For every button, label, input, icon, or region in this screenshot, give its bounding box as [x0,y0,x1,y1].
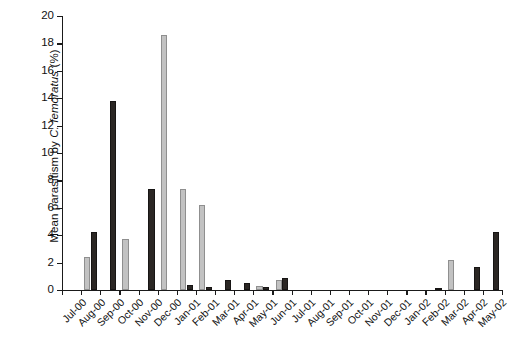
plot-area: 02468101214161820 [62,16,502,290]
bar [84,257,90,290]
x-tick-mark [406,290,407,295]
bar [161,35,167,290]
x-tick-mark [215,290,216,295]
y-tick-label: 6 [48,201,54,213]
y-tick-label: 0 [48,283,54,295]
x-tick-mark [158,290,159,295]
x-tick-mark [502,290,503,295]
x-tick-mark [445,290,446,295]
x-tick-mark [387,290,388,295]
x-tick-mark [119,290,120,295]
bar [276,280,282,290]
x-tick-mark [311,290,312,295]
x-tick-mark [177,290,178,295]
x-tick-mark [464,290,465,295]
x-tick-mark [349,290,350,295]
x-axis-line [62,290,502,291]
x-tick-mark [483,290,484,295]
bar [493,232,499,290]
x-tick-mark [330,290,331,295]
x-tick-mark [292,290,293,295]
bar [180,189,186,290]
x-tick-mark [253,290,254,295]
y-tick-label: 14 [41,91,54,103]
bar [435,288,441,290]
y-tick-label: 8 [48,173,54,185]
bar-group [62,16,502,290]
x-tick-mark [196,290,197,295]
bar [448,260,454,290]
bar [206,287,212,290]
y-tick-label: 16 [41,64,54,76]
y-tick-label: 20 [41,9,54,21]
x-tick-mark [368,290,369,295]
bar [244,283,250,290]
bar [282,278,288,290]
x-tick-mark [234,290,235,295]
x-axis-tick-labels: Jul-00Aug-00Sep-00Oct-00Nov-00Dec-00Jan-… [62,296,522,350]
y-tick-label: 12 [41,119,54,131]
bar [225,280,231,290]
bar [199,205,205,290]
bar [474,267,480,290]
bar [91,232,97,290]
chart-figure: Mean parasitism by C. femoratus (%) 0246… [0,0,526,350]
x-tick-mark [81,290,82,295]
y-tick-label: 2 [48,256,54,268]
bar [263,287,269,290]
bar [148,189,154,290]
y-tick-label: 18 [41,36,54,48]
x-tick-mark [272,290,273,295]
y-tick-label: 10 [41,146,54,158]
bar [122,239,128,290]
x-tick-mark [425,290,426,295]
bar [110,101,116,290]
x-tick-mark [62,290,63,295]
bar [187,285,193,290]
x-tick-mark [100,290,101,295]
bar [256,286,262,290]
y-tick-label: 4 [48,228,54,240]
x-tick-mark [139,290,140,295]
